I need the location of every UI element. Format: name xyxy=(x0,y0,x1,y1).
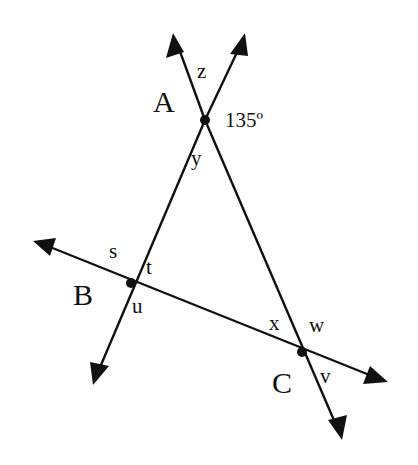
arrowhead-icon xyxy=(33,238,56,256)
angle-label-x: x xyxy=(269,311,280,335)
point-c-label: C xyxy=(272,366,292,399)
angle-label-w: w xyxy=(309,313,325,337)
angle-label-u: u xyxy=(132,294,143,318)
point-a-dot xyxy=(200,115,210,125)
arrowhead-icon xyxy=(90,362,109,385)
angle-label-z: z xyxy=(197,59,206,83)
arrowhead-icon xyxy=(328,415,347,440)
angle-label-v: v xyxy=(320,364,331,388)
geometry-diagram: A B C 135º z y s t u x w v xyxy=(0,0,418,465)
angle-label-s: s xyxy=(109,239,117,263)
point-b-label: B xyxy=(73,278,93,311)
point-b-dot xyxy=(126,278,136,288)
angle-label-t: t xyxy=(146,255,152,279)
arrowhead-icon xyxy=(363,366,388,384)
angle-label-y: y xyxy=(191,146,202,170)
arrowhead-icon xyxy=(230,33,248,56)
line-bc xyxy=(33,238,388,384)
point-a-label: A xyxy=(153,85,175,118)
point-c-dot xyxy=(297,347,307,357)
angle-label-135: 135º xyxy=(225,108,264,132)
